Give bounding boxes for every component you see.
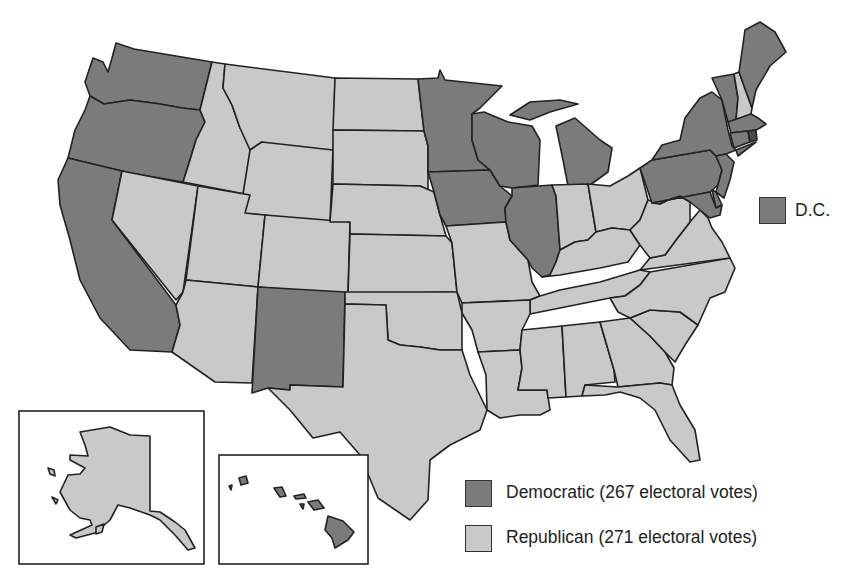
legend-swatch-republican <box>465 525 492 552</box>
state-florida[interactable] <box>582 383 700 462</box>
state-rhode-island[interactable] <box>748 130 757 142</box>
state-kansas[interactable] <box>348 234 457 294</box>
legend-label-republican: Republican (271 electoral votes) <box>506 527 757 548</box>
hawaii-inset-frame <box>219 455 368 564</box>
state-colorado[interactable] <box>258 215 350 294</box>
state-arizona[interactable] <box>172 280 258 383</box>
state-wyoming[interactable] <box>240 142 333 222</box>
state-washington[interactable] <box>85 43 212 110</box>
state-north-dakota[interactable] <box>333 78 424 131</box>
legend-swatch-democratic <box>465 480 492 507</box>
state-mississippi[interactable] <box>518 326 566 398</box>
legend-label-democratic: Democratic (267 electoral votes) <box>506 482 758 503</box>
state-new-mexico[interactable] <box>252 287 345 393</box>
dc-swatch <box>759 197 786 224</box>
hawaii-kauai[interactable] <box>239 476 248 485</box>
state-south-dakota[interactable] <box>333 130 428 190</box>
dc-label: D.C. <box>795 200 830 221</box>
